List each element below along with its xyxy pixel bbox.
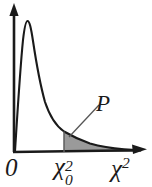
threshold-label-subscript: 0: [65, 172, 73, 187]
x-axis-label-base: χ: [111, 155, 122, 182]
chi-squared-distribution-figure: 0 χ20 χ2 P: [0, 0, 152, 187]
probability-label: P: [96, 92, 110, 115]
origin-label: 0: [5, 155, 18, 180]
x-axis-label: χ2: [111, 155, 130, 181]
origin-label-text: 0: [5, 154, 18, 181]
threshold-label: χ20: [54, 154, 65, 179]
x-axis-line: [13, 150, 136, 152]
probability-label-text: P: [96, 91, 110, 116]
p-leader-line: [69, 105, 99, 137]
y-axis-arrowhead: [9, 3, 18, 16]
density-curve: [15, 21, 141, 151]
threshold-label-base: χ: [54, 153, 65, 180]
x-axis-label-superscript: 2: [122, 154, 130, 171]
x-axis-arrowhead: [132, 145, 147, 154]
